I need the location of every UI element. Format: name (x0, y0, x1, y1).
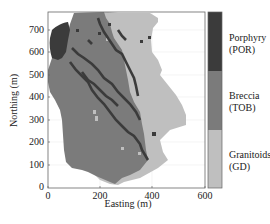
x-axis-label: Easting (m) (78, 198, 178, 209)
legend-item-breccia: Breccia (TOB) (229, 90, 260, 114)
y-tick-label: 100 (6, 160, 44, 170)
y-tick-label: 200 (6, 137, 44, 147)
y-axis-label: Northing (m) (8, 66, 19, 136)
y-tick-label: 600 (6, 47, 44, 57)
y-tick-label: 700 (6, 25, 44, 35)
legend-item-granitoids: Granitoids (GD) (229, 149, 270, 173)
colorbar (208, 12, 222, 188)
x-tick-label: 0 (33, 191, 63, 201)
legend-item-porphyry: Porphyry (POR) (229, 32, 266, 56)
x-tick-label: 600 (190, 191, 220, 201)
